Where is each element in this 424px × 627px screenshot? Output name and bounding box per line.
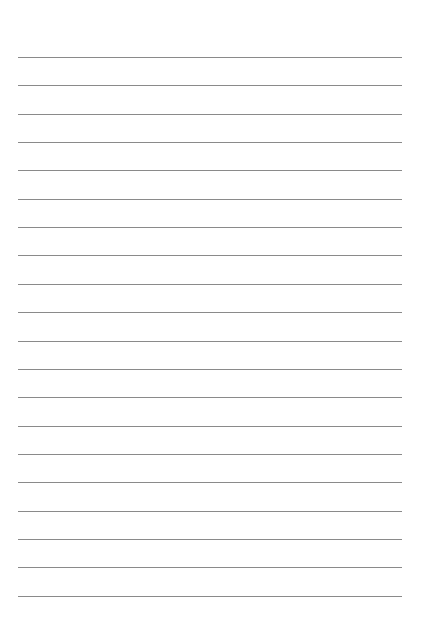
ruled-line bbox=[18, 284, 402, 285]
ruled-line bbox=[18, 341, 402, 342]
ruled-line bbox=[18, 567, 402, 568]
ruled-line bbox=[18, 170, 402, 171]
ruled-line bbox=[18, 227, 402, 228]
ruled-line bbox=[18, 397, 402, 398]
ruled-line bbox=[18, 312, 402, 313]
ruled-line bbox=[18, 114, 402, 115]
ruled-line bbox=[18, 57, 402, 58]
ruled-line bbox=[18, 539, 402, 540]
ruled-line bbox=[18, 511, 402, 512]
ruled-line bbox=[18, 199, 402, 200]
ruled-line bbox=[18, 85, 402, 86]
ruled-line bbox=[18, 596, 402, 597]
ruled-line bbox=[18, 454, 402, 455]
ruled-line bbox=[18, 426, 402, 427]
lined-paper-page bbox=[0, 0, 424, 627]
ruled-line bbox=[18, 482, 402, 483]
ruled-line bbox=[18, 255, 402, 256]
ruled-line bbox=[18, 142, 402, 143]
ruled-line bbox=[18, 369, 402, 370]
